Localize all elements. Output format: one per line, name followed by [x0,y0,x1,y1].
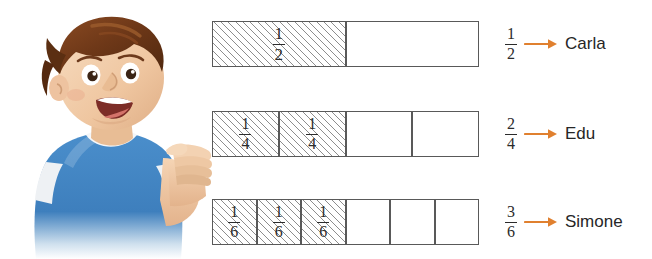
fraction-comparison-figure: 1 2 1 4 1 4 1 6 [0,0,652,259]
cell-fraction: 1 4 [239,116,251,152]
fraction-denominator: 6 [317,222,329,240]
result-fraction: 1 2 [505,26,517,62]
arrow-right-icon [524,215,558,229]
fraction-numerator: 1 [228,204,240,221]
cell-fraction: 1 4 [306,116,318,152]
fraction-numerator: 1 [239,116,251,133]
fraction-bar-cell [412,111,479,157]
fraction-bar-cell [346,111,413,157]
fraction-bar-cell: 1 4 [212,111,279,157]
fraction-denominator: 6 [505,222,517,240]
fraction-bar-cell: 1 6 [301,199,346,245]
fraction-numerator: 1 [273,204,285,221]
cell-fraction: 1 6 [273,204,285,240]
cartoon-boy-illustration [0,0,212,259]
fraction-bar-cell: 1 4 [279,111,346,157]
cell-fraction: 1 6 [228,204,240,240]
fraction-bar-row: 1 4 1 4 [212,111,479,157]
arrow-right-icon [524,37,558,51]
fraction-denominator: 2 [273,44,286,63]
fraction-bar-cell [390,199,435,245]
person-name: Edu [565,124,595,144]
fraction-bar-cell: 1 6 [257,199,302,245]
person-name: Simone [565,212,623,232]
result-label-row: 2 4 Edu [505,111,595,157]
fraction-bar-row: 1 6 1 6 1 6 [212,199,479,245]
fraction-numerator: 1 [505,26,517,43]
fraction-denominator: 4 [505,134,517,152]
fraction-bar-cell [435,199,480,245]
fraction-numerator: 1 [306,116,318,133]
cartoon-boy-svg [0,0,212,259]
fraction-bar-cell [346,199,391,245]
cell-fraction: 1 2 [273,25,286,63]
result-label-row: 1 2 Carla [505,21,606,67]
cell-fraction: 1 6 [317,204,329,240]
head [42,17,164,130]
fraction-numerator: 2 [505,116,517,133]
fraction-numerator: 1 [317,204,329,221]
fraction-bar-cell: 1 2 [212,21,346,67]
result-fraction: 2 4 [505,116,517,152]
person-name: Carla [565,34,606,54]
fraction-denominator: 2 [505,44,517,62]
fraction-denominator: 4 [239,134,251,152]
fraction-denominator: 6 [228,222,240,240]
fraction-bar-cell [346,21,480,67]
result-fraction: 3 6 [505,204,517,240]
fraction-numerator: 3 [505,204,517,221]
result-label-row: 3 6 Simone [505,199,623,245]
fraction-denominator: 6 [273,222,285,240]
arrow-right-icon [524,127,558,141]
fraction-bar-cell: 1 6 [212,199,257,245]
fraction-denominator: 4 [306,134,318,152]
fraction-bar-row: 1 2 [212,21,479,67]
fraction-numerator: 1 [273,25,286,43]
